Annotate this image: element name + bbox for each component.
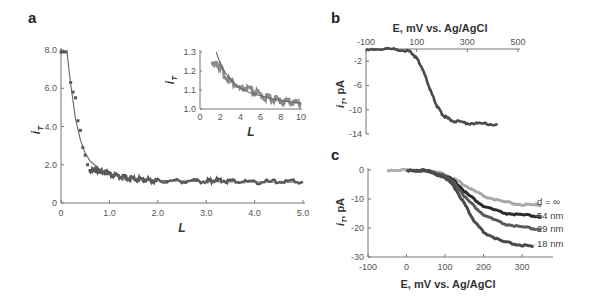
a-y-tick: 4.0	[44, 122, 57, 132]
inset-y-tick: 1.0	[183, 104, 196, 114]
inset-fit-curve	[216, 52, 301, 103]
c-x-tick: -100	[359, 262, 377, 272]
c-x-tick: 0	[404, 262, 409, 272]
a-y-tick: 0	[52, 198, 57, 208]
c-x-tick: 300	[514, 262, 529, 272]
c-curve-label: 29 nm	[537, 223, 563, 234]
a-x-tick: 5.0	[297, 208, 310, 218]
panel-c-plot: -10001002003000-10-20-30E, mV vs. Ag/AgC…	[334, 165, 563, 290]
a-data-point	[79, 129, 82, 132]
c-y-tick: -30	[351, 252, 364, 262]
panel-b-label: b	[331, 9, 340, 26]
a-data-point	[86, 163, 89, 166]
inset-x-tick: 4	[238, 112, 243, 122]
inset-x-tick: 8	[278, 112, 283, 122]
panel-b: b -100100300500-2-6-10-14E, mV vs. Ag/Ag…	[331, 9, 526, 139]
panel-c: c -10001002003000-10-20-30E, mV vs. Ag/A…	[331, 146, 563, 290]
inset-x-label: L	[247, 125, 254, 139]
a-data-point	[74, 96, 77, 99]
inset-y-tick: 1.1	[183, 85, 196, 95]
c-x-tick: 200	[476, 262, 491, 272]
c-curve-label: d = ∞	[537, 196, 560, 207]
inset-y-tick: 1.2	[183, 66, 196, 76]
b-x-label: E, mV vs. Ag/AgCl	[393, 22, 488, 34]
inset-x-tick: 0	[197, 112, 202, 122]
inset-x-tick: 10	[296, 112, 306, 122]
c-curve-18nm	[407, 170, 534, 247]
inset-x-tick: 6	[258, 112, 263, 122]
inset-y-tick: 1.3	[183, 47, 196, 57]
panel-a: a 02.04.06.08.001.02.03.04.05.0LiT 1.01.…	[28, 9, 309, 235]
panel-b-plot: -100100300500-2-6-10-14E, mV vs. Ag/AgCl…	[334, 22, 526, 139]
c-y-tick: 0	[359, 165, 364, 175]
a-y-tick: 8.0	[44, 45, 57, 55]
c-curve-label: 18 nm	[537, 238, 563, 249]
c-label-leader	[534, 244, 535, 247]
a-x-tick: 0	[58, 208, 63, 218]
b-y-tick: -14	[349, 129, 362, 139]
a-data-point	[76, 119, 79, 122]
c-y-label: iT, pA	[334, 198, 348, 226]
a-x-tick: 3.0	[200, 208, 213, 218]
b-x-tick: 300	[460, 37, 475, 47]
c-y-tick: -10	[351, 194, 364, 204]
a-x-label: L	[178, 221, 185, 235]
a-y-label: iT	[29, 125, 45, 134]
b-y-label: iT, pA	[334, 80, 348, 108]
b-x-tick: -100	[357, 37, 375, 47]
figure: a 02.04.06.08.001.02.03.04.05.0LiT 1.01.…	[0, 0, 596, 302]
inset-x-tick: 2	[218, 112, 223, 122]
a-x-tick: 4.0	[248, 208, 261, 218]
a-x-tick: 2.0	[152, 208, 165, 218]
b-y-tick: -10	[349, 105, 362, 115]
a-y-tick: 2.0	[44, 160, 57, 170]
inset-y-label: iT	[163, 75, 179, 84]
panel-a-plot: 02.04.06.08.001.02.03.04.05.0LiT	[29, 45, 309, 235]
panel-c-label: c	[331, 146, 339, 163]
b-y-tick: -6	[354, 80, 362, 90]
b-y-tick: -2	[354, 56, 362, 66]
inset-data-series	[212, 61, 301, 106]
a-y-tick: 6.0	[44, 83, 57, 93]
c-curve-label: 54 nm	[537, 210, 563, 221]
panel-a-label: a	[28, 9, 37, 26]
c-x-tick: 100	[437, 262, 452, 272]
panel-a-inset: 1.01.11.21.30246810LiT	[163, 47, 306, 139]
a-x-tick: 1.0	[103, 208, 116, 218]
c-y-tick: -20	[351, 223, 364, 233]
c-x-label: E, mV vs. Ag/AgCl	[401, 278, 496, 290]
b-current-curve	[366, 48, 498, 125]
b-x-tick: 500	[510, 37, 525, 47]
b-x-tick: 100	[409, 37, 424, 47]
